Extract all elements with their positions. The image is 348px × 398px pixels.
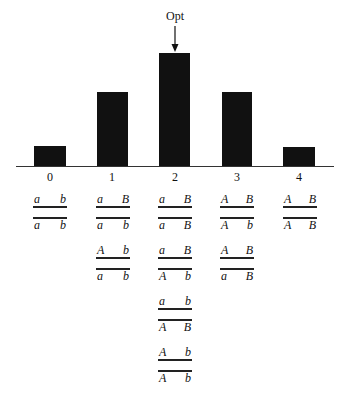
allele: a <box>221 270 227 282</box>
allele: A <box>284 219 291 231</box>
allele: B <box>246 193 253 205</box>
opt-label: Opt <box>162 9 188 24</box>
allele: b <box>60 219 66 231</box>
allele: B <box>309 219 316 231</box>
allele: A <box>284 193 291 205</box>
chromosome-line <box>33 206 67 208</box>
allele: a <box>34 219 40 231</box>
genotype-2-0: aB aB <box>158 193 192 229</box>
x-axis <box>16 166 334 167</box>
allele: B <box>122 193 129 205</box>
allele: b <box>247 219 253 231</box>
allele: B <box>184 219 191 231</box>
allele: A <box>159 321 166 333</box>
allele: b <box>60 193 66 205</box>
chromosome-line <box>158 257 192 259</box>
chromosome-line <box>158 206 192 208</box>
bar-3 <box>222 92 252 166</box>
allele: B <box>184 244 191 256</box>
allele: B <box>184 193 191 205</box>
tick-label-2: 2 <box>165 170 185 185</box>
allele: B <box>246 244 253 256</box>
allele: B <box>246 270 253 282</box>
chromosome-line <box>158 308 192 310</box>
allele: b <box>123 244 129 256</box>
allele: A <box>221 219 228 231</box>
allele: b <box>185 270 191 282</box>
chromosome-line <box>220 257 254 259</box>
genotype-1-0: aB ab <box>96 193 130 229</box>
bar-0 <box>34 146 66 166</box>
chromosome-line <box>220 206 254 208</box>
chromosome-line <box>96 206 130 208</box>
allele: b <box>123 270 129 282</box>
allele: B <box>309 193 316 205</box>
down-arrow-icon <box>174 26 176 53</box>
genotype-0-0: ab ab <box>33 193 67 229</box>
genotype-3-1: AB aB <box>220 244 254 280</box>
chromosome-line <box>283 206 317 208</box>
bar-2 <box>159 53 190 166</box>
genotype-3-0: AB Ab <box>220 193 254 229</box>
genotype-2-3: Ab Ab <box>158 346 192 382</box>
allele: a <box>97 193 103 205</box>
genotype-2-1: aB Ab <box>158 244 192 280</box>
allele: a <box>159 219 165 231</box>
allele: A <box>159 270 166 282</box>
allele: A <box>221 193 228 205</box>
tick-label-0: 0 <box>40 170 60 185</box>
bar-1 <box>97 92 128 166</box>
allele: A <box>159 372 166 384</box>
tick-label-4: 4 <box>289 170 309 185</box>
allele: b <box>185 295 191 307</box>
tick-label-3: 3 <box>227 170 247 185</box>
allele: A <box>97 244 104 256</box>
bar-4 <box>283 147 315 166</box>
chromosome-line <box>158 359 192 361</box>
allele: a <box>159 244 165 256</box>
genotype-4-0: AB AB <box>283 193 317 229</box>
genotype-2-2: ab AB <box>158 295 192 331</box>
allele: B <box>184 321 191 333</box>
allele: b <box>185 346 191 358</box>
allele: A <box>159 346 166 358</box>
genotype-1-1: Ab ab <box>96 244 130 280</box>
allele: a <box>34 193 40 205</box>
allele: a <box>159 193 165 205</box>
allele: b <box>185 372 191 384</box>
allele: a <box>97 270 103 282</box>
allele: a <box>97 219 103 231</box>
allele: a <box>159 295 165 307</box>
allele: b <box>123 219 129 231</box>
allele: A <box>221 244 228 256</box>
tick-label-1: 1 <box>102 170 122 185</box>
chromosome-line <box>96 257 130 259</box>
